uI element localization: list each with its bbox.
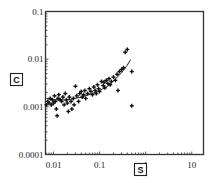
data-point [83, 89, 87, 93]
data-point [116, 89, 120, 93]
data-points [44, 47, 133, 117]
scatter-chart: 0.10.010.0010.0001 0.010.1110 C S [0, 0, 214, 183]
data-point [55, 114, 59, 118]
data-point [130, 70, 134, 74]
y-tick-label: 0.1 [32, 7, 43, 17]
svg-text:C: C [13, 75, 20, 85]
y-tick-label: 0.01 [28, 54, 44, 64]
data-point [54, 107, 58, 111]
data-point [57, 93, 61, 97]
y-tick-label: 0.001 [23, 102, 43, 112]
plot-frame [46, 12, 204, 155]
x-tick-label: 0.01 [46, 160, 62, 170]
data-point [71, 96, 75, 100]
data-point [63, 92, 67, 96]
data-point [92, 85, 96, 89]
data-point [61, 95, 65, 99]
y-tick-label: 0.0001 [19, 150, 44, 160]
x-tick-label: 0.1 [94, 160, 105, 170]
data-point [130, 104, 134, 108]
x-axis-tick-labels: 0.010.1110 [46, 160, 197, 170]
data-point [77, 99, 81, 103]
x-axis-label: S [135, 164, 147, 176]
data-point [95, 83, 99, 87]
data-point [70, 107, 74, 111]
data-point [52, 94, 56, 98]
x-tick-label: 10 [187, 160, 197, 170]
data-point [72, 103, 76, 107]
svg-text:S: S [137, 165, 143, 175]
data-point [125, 47, 129, 51]
data-point [67, 95, 71, 99]
data-point [123, 50, 127, 54]
y-axis-label: C [11, 74, 23, 86]
data-point [66, 109, 70, 113]
data-point [73, 84, 77, 88]
data-point [84, 96, 88, 100]
data-point [69, 99, 73, 103]
